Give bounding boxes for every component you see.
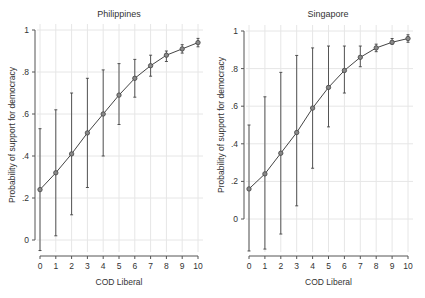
data-point [326,85,330,89]
x-tick-label: 5 [117,261,122,271]
x-tick-label: 0 [247,261,252,271]
data-point [85,131,89,135]
data-point [342,68,346,72]
y-tick-label: .6 [22,109,29,119]
y-tick-label: .6 [231,101,238,111]
data-point [148,63,152,67]
data-point [69,152,73,156]
panel-philippines: Philippines0.2.4.6.81Probability of supp… [7,9,203,287]
y-tick-label: 1 [233,26,238,36]
x-tick-label: 5 [326,261,331,271]
data-point [295,130,299,134]
figure: Philippines0.2.4.6.81Probability of supp… [0,0,425,298]
x-tick-label: 6 [132,261,137,271]
x-tick-label: 2 [278,261,283,271]
x-tick-label: 1 [263,261,268,271]
x-axis-label: COD Liberal [96,277,143,287]
x-tick-label: 3 [294,261,299,271]
y-tick-label: .8 [22,67,29,77]
x-tick-label: 1 [53,261,58,271]
x-tick-label: 10 [403,261,413,271]
x-tick-label: 3 [85,261,90,271]
panel-title: Philippines [97,9,141,19]
data-point [133,76,137,80]
data-point [406,36,410,40]
y-axis-label: Probability of support for democracy [7,66,17,203]
y-tick-label: 1 [24,25,29,35]
data-point [117,93,121,97]
x-tick-label: 7 [358,261,363,271]
x-axis-label: COD Liberal [305,277,352,287]
data-point [247,187,251,191]
data-point [310,106,314,110]
y-tick-label: .2 [22,193,29,203]
panel-singapore: Singapore0.2.4.6.81Probability of suppor… [216,9,413,287]
x-tick-label: 8 [164,261,169,271]
x-tick-label: 4 [310,261,315,271]
data-point [279,151,283,155]
y-axis-label: Probability of support for democracy [216,56,226,193]
data-point [38,187,42,191]
y-tick-label: 0 [24,235,29,245]
panel-title: Singapore [307,9,348,19]
data-point [101,112,105,116]
data-point [180,47,184,51]
y-tick-label: 0 [233,214,238,224]
x-tick-label: 7 [148,261,153,271]
data-point [54,171,58,175]
x-tick-label: 2 [69,261,74,271]
data-point [374,46,378,50]
x-tick-label: 8 [374,261,379,271]
y-tick-label: .8 [231,64,238,74]
y-tick-label: .4 [22,151,29,161]
data-point [196,40,200,44]
data-point [358,55,362,59]
x-tick-label: 10 [193,261,203,271]
x-tick-label: 0 [38,261,43,271]
data-point [263,172,267,176]
x-tick-label: 9 [390,261,395,271]
y-tick-label: .2 [231,176,238,186]
x-tick-label: 9 [180,261,185,271]
data-point [164,53,168,57]
x-tick-label: 4 [101,261,106,271]
y-tick-label: .4 [231,139,238,149]
x-tick-label: 6 [342,261,347,271]
data-point [390,40,394,44]
